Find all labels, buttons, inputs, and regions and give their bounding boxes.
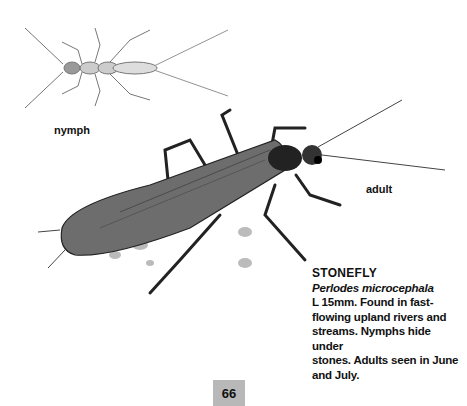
page-number: 66 [213, 380, 245, 406]
description-line: flowing upland rivers and [312, 310, 462, 325]
species-description: STONEFLY Perlodes microcephala L 15mm. F… [312, 266, 462, 382]
nymph-label: nymph [54, 124, 90, 136]
stonefly-adult-illustration [38, 100, 445, 293]
stonefly-nymph-illustration [25, 28, 228, 108]
description-line: streams. Nymphs hide under [312, 324, 462, 353]
description-line: stones. Adults seen in June [312, 353, 462, 368]
description-line: and July. [312, 368, 462, 383]
species-title: STONEFLY [312, 266, 462, 281]
latin-name: Perlodes microcephala [312, 281, 462, 296]
adult-label: adult [366, 183, 392, 195]
description-line: L 15mm. Found in fast- [312, 295, 462, 310]
